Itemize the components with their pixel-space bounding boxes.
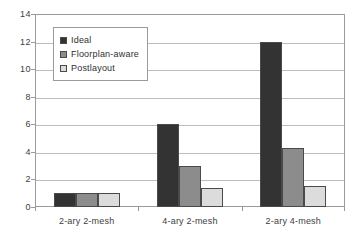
y-axis-tick-label: 14: [0, 10, 31, 19]
legend-swatch-icon: [60, 51, 67, 58]
x-axis-tick-mark: [35, 207, 36, 211]
x-axis: 2-ary 2-mesh4-ary 2-mesh2-ary 4-mesh: [35, 207, 345, 241]
y-axis-tick-label: 4: [0, 148, 31, 157]
x-axis-tick-mark: [344, 207, 345, 211]
bar-group: [138, 14, 241, 207]
bar: [260, 42, 282, 207]
legend-label: Postlayout: [71, 63, 115, 73]
legend-label: Floorplan-aware: [71, 49, 139, 59]
y-axis-tick-label: 2: [0, 175, 31, 184]
legend-entry: Postlayout: [60, 61, 139, 75]
y-axis-tick-label: 6: [0, 120, 31, 129]
bar: [304, 186, 326, 207]
x-axis-tick-label: 2-ary 2-mesh: [35, 216, 138, 227]
bar: [157, 124, 179, 207]
legend-label: Ideal: [71, 35, 92, 45]
bar: [201, 188, 223, 207]
x-axis-tick-mark: [138, 207, 139, 211]
legend-swatch-icon: [60, 37, 67, 44]
chart-legend: IdealFloorplan-awarePostlayout: [53, 27, 148, 81]
bar: [54, 193, 76, 207]
bar: [282, 148, 304, 207]
legend-swatch-icon: [60, 65, 67, 72]
x-axis-tick-label: 4-ary 2-mesh: [138, 216, 241, 227]
y-axis-tick-label: 12: [0, 38, 31, 47]
bar: [76, 193, 98, 207]
y-axis-tick-label: 10: [0, 65, 31, 74]
legend-entry: Floorplan-aware: [60, 47, 139, 61]
x-axis-tick-label: 2-ary 4-mesh: [242, 216, 345, 227]
bar: [179, 166, 201, 207]
y-axis-tick-label: 8: [0, 93, 31, 102]
y-axis: 02468101214: [0, 14, 31, 207]
bar-chart: 02468101214 2-ary 2-mesh4-ary 2-mesh2-ar…: [0, 0, 360, 241]
bar-group: [242, 14, 345, 207]
bar: [98, 193, 120, 207]
legend-entry: Ideal: [60, 33, 139, 47]
x-axis-tick-mark: [242, 207, 243, 211]
y-axis-tick-label: 0: [0, 203, 31, 212]
